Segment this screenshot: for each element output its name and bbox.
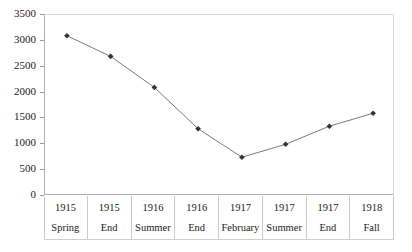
y-tick-label: 2000: [0, 86, 36, 97]
data-point-marker: [327, 123, 333, 129]
x-axis-season-label: End: [319, 222, 336, 233]
x-axis-year-label: 1918: [361, 202, 382, 213]
x-axis-season-label: Spring: [51, 222, 79, 233]
y-axis: 0500100015002000250030003500: [0, 0, 40, 252]
x-axis-year-label: 1915: [99, 202, 120, 213]
x-axis-column: 1915Spring: [44, 196, 88, 239]
y-tick-label: 3500: [0, 8, 36, 19]
y-tick-label: 2500: [0, 60, 36, 71]
x-axis-season-label: February: [221, 222, 259, 233]
x-axis-year-label: 1915: [55, 202, 76, 213]
x-axis-column: 1917End: [307, 196, 351, 239]
x-axis-season-label: Fall: [363, 222, 379, 233]
x-axis-year-label: 1917: [274, 202, 295, 213]
x-axis-column: 1917Summer: [263, 196, 307, 239]
y-tick-label: 1000: [0, 137, 36, 148]
x-axis-season-label: Summer: [135, 222, 171, 233]
x-axis-season-label: End: [188, 222, 205, 233]
series-line-chart: [45, 15, 395, 196]
x-axis-column: 1916End: [175, 196, 219, 239]
y-tick-label: 500: [0, 163, 36, 174]
data-point-marker: [239, 154, 245, 160]
x-axis-column: 1918Fall: [350, 196, 394, 239]
line-chart-figure: 0500100015002000250030003500 1915Spring1…: [0, 0, 412, 252]
data-point-marker: [370, 110, 376, 116]
data-point-marker: [283, 141, 289, 147]
x-axis-year-label: 1916: [142, 202, 163, 213]
plot-area: [44, 14, 394, 195]
x-axis-year-label: 1917: [230, 202, 251, 213]
x-axis-column: 1917February: [219, 196, 263, 239]
x-axis-year-label: 1916: [186, 202, 207, 213]
series-polyline: [67, 36, 373, 158]
data-point-marker: [64, 33, 70, 39]
x-axis-season-label: Summer: [266, 222, 302, 233]
x-axis-column: 1915End: [88, 196, 132, 239]
x-axis-year-label: 1917: [317, 202, 338, 213]
x-axis-column: 1916Summer: [132, 196, 176, 239]
x-axis-season-label: End: [101, 222, 118, 233]
x-axis-table: 1915Spring1915End1916Summer1916End1917Fe…: [44, 196, 394, 240]
y-tick-label: 3000: [0, 34, 36, 45]
y-tick-label: 0: [0, 189, 36, 200]
y-tick-label: 1500: [0, 111, 36, 122]
